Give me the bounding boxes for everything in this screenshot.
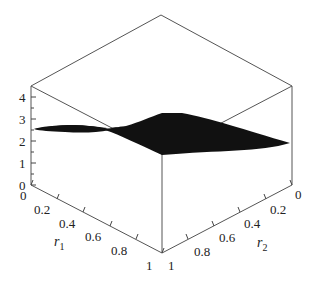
r2-tick-3: 0.6 xyxy=(219,231,235,244)
r1-tick-1: 0.2 xyxy=(34,203,50,216)
r2-tick-0: 0 xyxy=(295,188,302,201)
r2-tick-2: 0.4 xyxy=(244,217,260,230)
z-tick-4: 4 xyxy=(19,91,26,104)
surface xyxy=(34,113,290,155)
z-tick-3: 3 xyxy=(19,113,26,126)
r1-tick-3: 0.6 xyxy=(85,230,101,243)
r1-tick-0: 0 xyxy=(20,189,27,202)
r1-tick-4: 0.8 xyxy=(111,244,127,257)
r1-axis-label: r1 xyxy=(54,235,64,252)
r1-tick-5: 1 xyxy=(146,259,153,272)
z-tick-2: 2 xyxy=(19,135,26,148)
z-tick-1: 1 xyxy=(19,157,26,170)
r2-tick-5: 1 xyxy=(168,259,175,272)
r2-tick-1: 0.2 xyxy=(270,203,286,216)
r1-tick-2: 0.4 xyxy=(59,217,75,230)
r2-tick-4: 0.8 xyxy=(194,245,210,258)
z-axis-ticks xyxy=(31,97,36,185)
r2-axis-label: r2 xyxy=(257,236,267,253)
